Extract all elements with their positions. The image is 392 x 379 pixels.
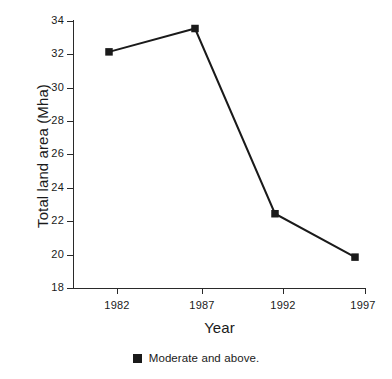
data-point-1987 [191, 25, 199, 33]
line-chart-figure: 34 32 30 28 26 24 22 20 18 1982 1987 199… [0, 0, 392, 379]
filled-square-marker-icon [133, 354, 142, 363]
data-point-1992 [271, 210, 279, 218]
series-markers-moderate-and-above [105, 25, 359, 261]
data-point-1982 [105, 48, 113, 56]
data-point-1997 [351, 253, 359, 261]
chart-legend: Moderate and above. [0, 352, 392, 364]
series-plot-area [0, 0, 392, 379]
series-line-moderate-and-above [109, 29, 355, 258]
legend-label-moderate-and-above: Moderate and above. [149, 352, 260, 364]
